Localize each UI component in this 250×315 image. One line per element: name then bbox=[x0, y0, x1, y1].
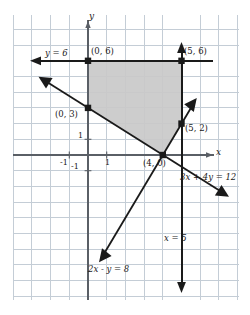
x-tick-one: 1 bbox=[105, 159, 110, 167]
line-label-2x-minus-y-equals-8: 2x - y = 8 bbox=[88, 265, 129, 274]
point-label-5-6: (5, 6) bbox=[184, 47, 207, 56]
shaded-feasible-region bbox=[88, 61, 182, 155]
x-axis-label: x bbox=[216, 148, 221, 157]
line-label-y-equals-6: y = 6 bbox=[45, 49, 68, 58]
graph-figure: y x -1 -1 1 1 (0, 6) (5, 6) (0, 3) (5, 2… bbox=[0, 0, 250, 315]
marker-0-3 bbox=[85, 105, 91, 111]
point-label-0-6: (0, 6) bbox=[91, 47, 114, 56]
marker-5-6 bbox=[178, 58, 184, 64]
x-axis-arrow bbox=[206, 152, 213, 158]
marker-5-2 bbox=[178, 120, 184, 126]
y-axis-arrow bbox=[85, 21, 90, 28]
point-label-0-3: (0, 3) bbox=[55, 110, 78, 119]
y-tick-neg-one: -1 bbox=[71, 163, 79, 171]
arrow-down-x5 bbox=[177, 282, 186, 293]
marker-0-6 bbox=[85, 58, 91, 64]
line-label-3x-plus-4y-equals-12: 3x + 4y = 12 bbox=[180, 173, 236, 182]
x-tick-neg-one: -1 bbox=[60, 159, 68, 167]
y-tick-one: 1 bbox=[78, 132, 83, 140]
y-axis-label: y bbox=[89, 12, 94, 21]
point-label-5-2: (5, 2) bbox=[185, 124, 208, 133]
point-label-4-0: (4, 0) bbox=[143, 159, 166, 168]
line-label-x-equals-5: x = 5 bbox=[164, 234, 187, 243]
